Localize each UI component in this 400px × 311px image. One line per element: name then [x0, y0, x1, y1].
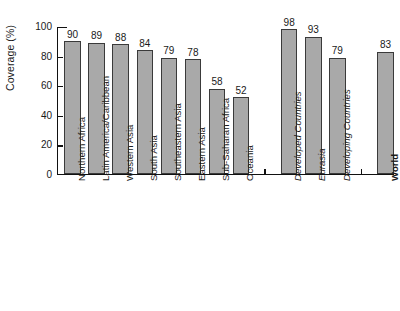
bar-value-label: 79 — [323, 46, 351, 56]
y-axis-tick-mark — [58, 116, 63, 117]
bar-value-label: 78 — [179, 48, 207, 58]
y-axis-line — [57, 27, 58, 175]
y-axis-tick-mark — [58, 86, 63, 87]
x-axis-category-label: Western Asia — [125, 125, 135, 181]
y-axis-tick-mark — [58, 145, 63, 146]
x-axis-category-label: Eastern Asia — [197, 127, 207, 181]
x-axis-category-label: Northern Africa — [77, 117, 87, 181]
y-axis-tick-label: 40 — [24, 111, 52, 121]
y-axis-top-cap-tick — [58, 27, 67, 28]
y-axis-tick-label: 80 — [24, 52, 52, 62]
y-axis-tick-label: 20 — [24, 140, 52, 150]
bar-value-label: 52 — [227, 86, 255, 96]
bar-value-label: 93 — [299, 25, 327, 35]
x-axis-category-label: Sub-Saharan Africa — [221, 98, 231, 181]
y-axis-tick-labels: 020406080100 — [22, 0, 52, 311]
x-axis-category-label: Latin America/Caribbean — [101, 76, 111, 181]
y-axis-tick-mark — [58, 57, 63, 58]
x-axis-category-label: World — [390, 154, 400, 181]
x-axis-category-label: Developed Countries — [293, 91, 303, 181]
group-separator-tick — [264, 169, 265, 174]
y-axis-tick-label: 0 — [24, 170, 52, 180]
y-axis-tick-label: 60 — [24, 81, 52, 91]
x-axis-category-label: Southeastern Asia — [173, 103, 183, 181]
y-axis-title: Coverage (%) — [4, 3, 24, 113]
x-axis-category-label: Oceania — [245, 145, 255, 181]
x-axis-category-label: Developing Countries — [342, 89, 352, 181]
group-separator-tick — [361, 169, 362, 174]
y-axis-tick-label: 100 — [24, 22, 52, 32]
x-axis-category-label: Eurasia — [317, 148, 327, 181]
bar-value-label: 83 — [371, 40, 399, 50]
x-axis-category-label: South Asia — [149, 135, 159, 181]
